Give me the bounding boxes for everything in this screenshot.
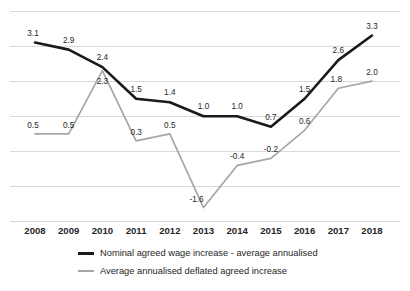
data-label: 0.7	[265, 113, 277, 122]
data-label: 0.3	[130, 128, 142, 137]
series-line-deflated	[35, 71, 372, 208]
data-label: 0.5	[63, 121, 75, 130]
data-label: 2.6	[333, 46, 345, 55]
data-label: 1.5	[299, 85, 311, 94]
data-label: 0.5	[164, 121, 176, 130]
data-label: 3.1	[27, 29, 39, 38]
data-label: 1.5	[130, 85, 142, 94]
data-label: 2.4	[97, 53, 109, 62]
data-label: 2.0	[366, 68, 378, 77]
x-tick-label: 2016	[294, 225, 315, 236]
legend-swatch-nominal-icon	[78, 252, 94, 255]
x-tick-label: 2010	[92, 225, 113, 236]
legend-item-nominal: Nominal agreed wage increase - average a…	[0, 244, 410, 262]
legend-swatch-deflated-icon	[78, 270, 94, 272]
x-tick-label: 2015	[260, 225, 282, 236]
data-label: 1.8	[331, 75, 343, 84]
line-chart: 3.12.92.41.51.41.01.00.71.52.63.30.50.52…	[0, 0, 410, 291]
data-label: 3.3	[366, 22, 378, 31]
x-tick-label: 2014	[227, 225, 249, 236]
data-label: 1.0	[232, 102, 244, 111]
x-tick-label: 2018	[361, 225, 383, 236]
x-tick-label: 2017	[328, 225, 349, 236]
data-label: 0.6	[299, 117, 311, 126]
data-label: 2.9	[63, 36, 75, 45]
legend-item-deflated: Average annualised deflated agreed incre…	[0, 262, 410, 280]
x-tick-label: 2013	[193, 225, 214, 236]
data-label: 1.4	[164, 88, 176, 97]
data-label: 0.5	[27, 121, 39, 130]
x-axis-tick-labels: 2008200920102011201220132014201520162017…	[24, 225, 383, 236]
x-tick-label: 2011	[126, 225, 147, 236]
legend-label-nominal: Nominal agreed wage increase - average a…	[100, 248, 318, 258]
data-label: 2.3	[97, 77, 109, 86]
series-lines	[35, 36, 372, 208]
chart-legend: Nominal agreed wage increase - average a…	[0, 244, 410, 280]
data-label: -1.6	[189, 195, 204, 204]
x-tick-label: 2012	[159, 225, 180, 236]
legend-label-deflated: Average annualised deflated agreed incre…	[100, 266, 287, 276]
data-label: -0.4	[230, 152, 245, 161]
x-tick-label: 2009	[58, 225, 79, 236]
x-tick-label: 2008	[24, 225, 46, 236]
data-label: -0.2	[264, 145, 279, 154]
data-label: 1.0	[198, 102, 210, 111]
